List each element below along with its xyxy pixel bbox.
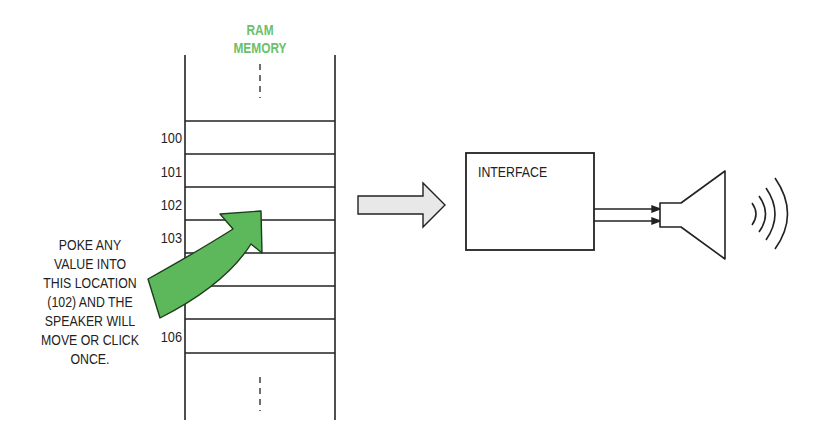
address-label: 102 <box>155 196 182 213</box>
interface-label: INTERFACE <box>478 164 547 180</box>
title-line-1: RAM <box>209 21 311 39</box>
annotation-line: THIS LOCATION <box>33 274 147 293</box>
address-label: 100 <box>155 129 182 146</box>
diagram-canvas <box>0 0 826 442</box>
address-label: 106 <box>155 328 182 345</box>
signal-wires <box>594 206 660 224</box>
annotation-line: MOVE OR CLICK <box>33 331 147 350</box>
ram-memory-title: RAM MEMORY <box>209 21 311 57</box>
poke-annotation: POKE ANY VALUE INTO THIS LOCATION (102) … <box>33 236 147 369</box>
annotation-line: ONCE. <box>33 350 147 369</box>
address-label: 103 <box>155 229 182 246</box>
sound-waves-icon <box>752 178 788 249</box>
annotation-line: SPEAKER WILL <box>33 312 147 331</box>
poke-arrow-icon <box>148 211 262 318</box>
transfer-arrow-icon <box>358 183 445 227</box>
address-label: 101 <box>155 163 182 180</box>
speaker-icon <box>660 171 725 259</box>
title-line-2: MEMORY <box>209 39 311 57</box>
annotation-line: (102) AND THE <box>33 293 147 312</box>
annotation-line: POKE ANY <box>33 236 147 255</box>
annotation-line: VALUE INTO <box>33 255 147 274</box>
